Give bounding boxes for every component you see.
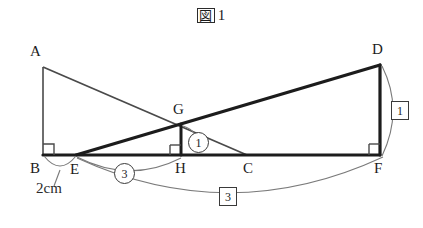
measure-badge-G: 1 — [188, 132, 209, 153]
geometry-diagram — [0, 0, 423, 228]
measure-badge-DF: 1 — [391, 101, 409, 120]
vertex-label-D: D — [372, 42, 383, 57]
right-angle-B — [43, 144, 54, 155]
measure-badge-EF: 3 — [219, 187, 237, 206]
vertex-label-G: G — [173, 102, 184, 117]
vertex-label-A: A — [30, 44, 41, 59]
vertex-label-C: C — [243, 161, 253, 176]
vertex-label-E: E — [70, 162, 79, 177]
measure-label-2cm: 2cm — [36, 181, 62, 196]
segment-ED — [76, 65, 380, 155]
vertex-label-B: B — [30, 161, 40, 176]
segment-AC — [43, 67, 247, 155]
measure-badge-EH: 3 — [114, 163, 135, 184]
figure-container: 図1 A B C D E F G H 2cm 3 1 1 3 — [0, 0, 423, 228]
vertex-label-F: F — [374, 161, 382, 176]
vertex-label-H: H — [175, 161, 186, 176]
